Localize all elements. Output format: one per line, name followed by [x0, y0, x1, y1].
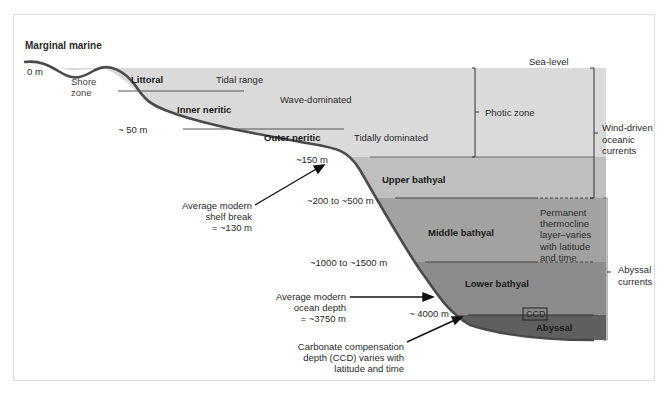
middle-bathyal-band: [0, 198, 600, 262]
outer-neritic-label: Outer neritic: [264, 132, 321, 143]
thermocline-label: Permanent thermocline layer–varies with …: [540, 207, 591, 263]
photic-zone-label: Photic zone: [485, 107, 535, 118]
ocean-depth-annotation: Average modern ocean depth = ~3750 m: [262, 291, 346, 324]
diagram-title: Marginal marine: [25, 40, 102, 51]
depth-0m: 0 m: [27, 66, 43, 77]
littoral-label: Littoral: [131, 74, 163, 85]
ccd-annotation: Carbonate compensation depth (CCD) varie…: [280, 341, 404, 374]
depth-150m: ~150 m: [296, 154, 328, 165]
abyssal-label: Abyssal: [536, 322, 572, 333]
wave-dominated-label: Wave-dominated: [280, 94, 351, 105]
inner-neritic-label: Inner neritic: [177, 104, 231, 115]
shore-zone-label: Shore zone: [71, 76, 96, 98]
sea-level-label: Sea-level: [529, 56, 569, 67]
lower-bathyal-label: Lower bathyal: [465, 278, 529, 289]
abyssal-currents-label: Abyssal currents: [618, 264, 652, 287]
depth-4000m: ~ 4000 m: [409, 308, 449, 319]
depth-200-500m: ~200 to ~500 m: [307, 195, 374, 206]
tidal-range-label: Tidal range: [216, 74, 263, 85]
wind-driven-currents-label: Wind-driven oceanic currents: [602, 122, 653, 157]
tidally-dominated-label: Tidally dominated: [354, 132, 428, 143]
depth-50m: ~ 50 m: [118, 124, 147, 135]
depth-1000-1500m: ~1000 to ~1500 m: [310, 257, 387, 268]
upper-bathyal-label: Upper bathyal: [382, 174, 445, 185]
middle-bathyal-label: Middle bathyal: [428, 227, 494, 238]
ccd-box-label: CCD: [526, 309, 546, 320]
shelf-break-annotation: Average modern shelf break = ~130 m: [170, 200, 252, 233]
